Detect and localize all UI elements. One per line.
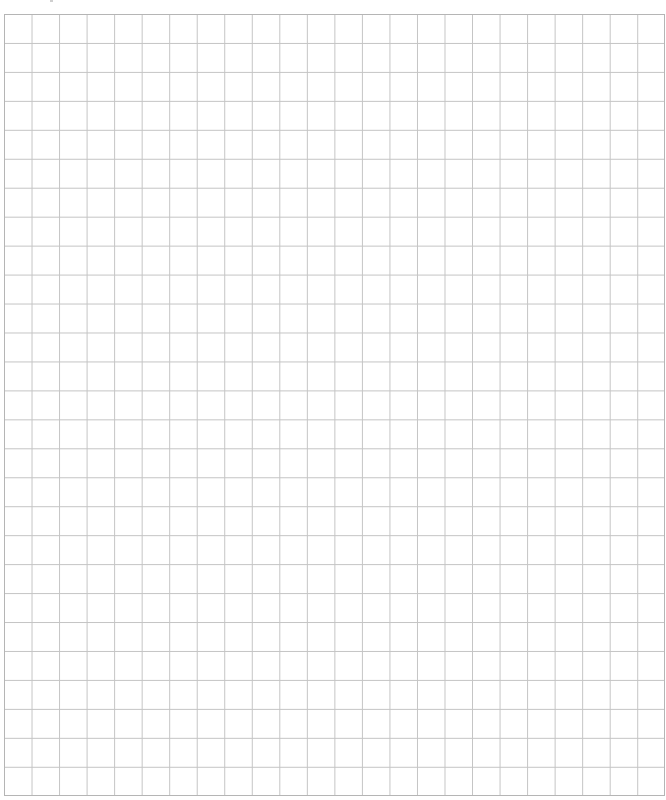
scan-mark — [50, 0, 53, 2]
grid-paper — [4, 14, 665, 796]
